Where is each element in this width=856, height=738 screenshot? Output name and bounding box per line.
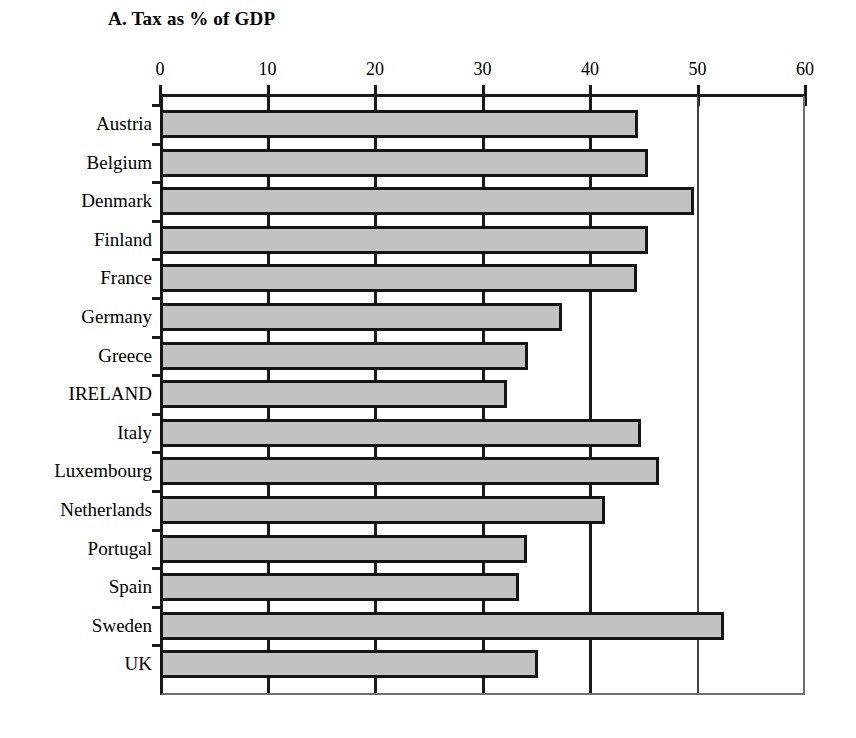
y-tick-label-austria: Austria (4, 114, 152, 133)
bar-netherlands (160, 496, 605, 524)
bar-denmark (160, 187, 694, 215)
bar-luxembourg (160, 457, 659, 485)
x-tick-label-60: 60 (775, 59, 835, 80)
y-tick-label-italy: Italy (4, 423, 152, 442)
y-tick-label-germany: Germany (4, 307, 152, 326)
y-tick-label-luxembourg: Luxembourg (4, 461, 152, 480)
y-tick-label-netherlands: Netherlands (4, 500, 152, 519)
y-tick-label-uk: UK (4, 654, 152, 673)
y-tick-label-sweden: Sweden (4, 616, 152, 635)
y-tick-label-belgium: Belgium (4, 153, 152, 172)
x-tick-label-40: 40 (560, 59, 620, 80)
x-tick-label-30: 30 (453, 59, 513, 80)
y-tick-label-denmark: Denmark (4, 191, 152, 210)
y-tick-label-ireland: IRELAND (4, 384, 152, 403)
bar-greece (160, 342, 528, 370)
bar-ireland (160, 380, 507, 408)
bars-container (160, 96, 805, 695)
x-tick-label-50: 50 (668, 59, 728, 80)
bar-france (160, 264, 637, 292)
bar-germany (160, 303, 562, 331)
y-tick-label-france: France (4, 268, 152, 287)
bar-portugal (160, 535, 527, 563)
bar-chart-figure: A. Tax as % of GDP 0102030405060 Austria… (0, 0, 856, 738)
bar-finland (160, 226, 648, 254)
y-tick-label-greece: Greece (4, 346, 152, 365)
y-tick-label-finland: Finland (4, 230, 152, 249)
bar-sweden (160, 612, 724, 640)
bar-spain (160, 573, 519, 601)
bar-austria (160, 110, 638, 138)
bar-uk (160, 650, 538, 678)
y-axis-category-labels: AustriaBelgiumDenmarkFinlandFranceGerman… (0, 0, 152, 738)
x-tick-label-20: 20 (345, 59, 405, 80)
bar-belgium (160, 149, 648, 177)
y-tick-label-portugal: Portugal (4, 539, 152, 558)
y-tick-label-spain: Spain (4, 577, 152, 596)
bar-italy (160, 419, 641, 447)
x-tick-label-10: 10 (238, 59, 298, 80)
